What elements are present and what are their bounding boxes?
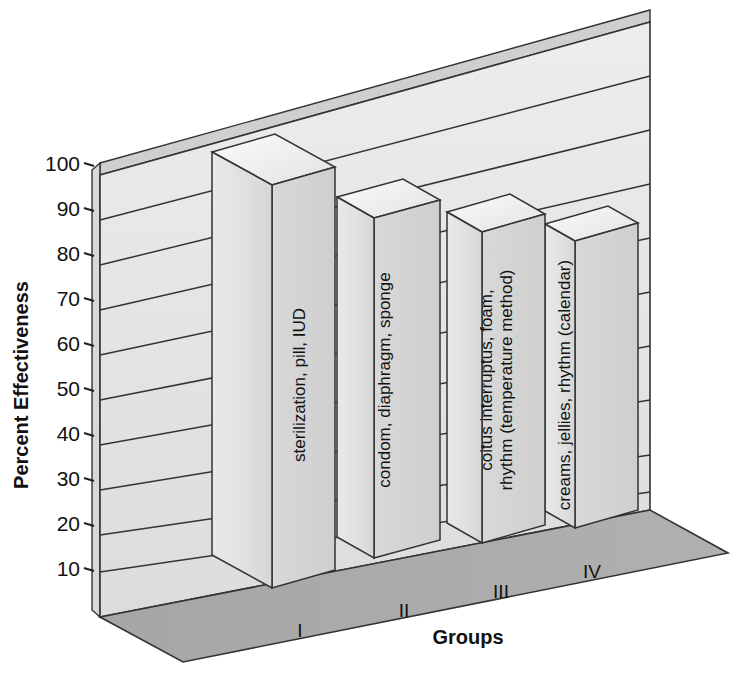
y-tick-label-10: 10 [57,557,80,580]
x-axis-title: Groups [432,626,503,648]
x-group-label-III: III [493,581,509,602]
bar-III-label-line1: coitus interruptus, foam, [477,289,496,470]
bar-I-label-line1: sterilization, pill, IUD [290,308,309,462]
chart-figure: 100 90 80 70 60 50 40 30 20 10 Percent E… [0,0,750,685]
y-tick-label-90: 90 [57,197,80,220]
x-group-label-I: I [297,620,302,641]
bar-IV-label-line1: creams, jellies, rhythm (calendar) [555,260,574,510]
bar-III-label-line2: rhythm (temperature method) [497,269,516,490]
x-group-label-II: II [399,600,410,621]
y-tick-label-70: 70 [57,287,80,310]
y-tick-label-100: 100 [45,152,80,175]
bar-I-front [212,152,272,588]
y-axis-title: Percent Effectiveness [10,281,32,489]
y-tick-label-60: 60 [57,332,80,355]
x-group-label-IV: IV [583,561,601,582]
y-tick-label-80: 80 [57,242,80,265]
bar-II-label-line1: condom, diaphragm, sponge [375,272,394,487]
y-tick-label-50: 50 [57,377,80,400]
bar-group-I[interactable]: sterilization, pill, IUD [212,134,335,588]
y-axis: 100 90 80 70 60 50 40 30 20 10 Percent E… [10,152,94,580]
bar-chart-3d: 100 90 80 70 60 50 40 30 20 10 Percent E… [0,0,750,685]
ytick-100 [84,163,94,166]
y-tick-label-20: 20 [57,512,80,535]
y-tick-label-40: 40 [57,422,80,445]
bar-group-III[interactable]: coitus interruptus, foam, rhythm (temper… [447,194,545,543]
bar-group-II[interactable]: condom, diaphragm, sponge [337,179,440,558]
bar-IV-side [575,223,638,528]
bar-group-IV[interactable]: creams, jellies, rhythm (calendar) [545,206,638,528]
bar-II-front [337,197,374,558]
y-tick-label-30: 30 [57,467,80,490]
